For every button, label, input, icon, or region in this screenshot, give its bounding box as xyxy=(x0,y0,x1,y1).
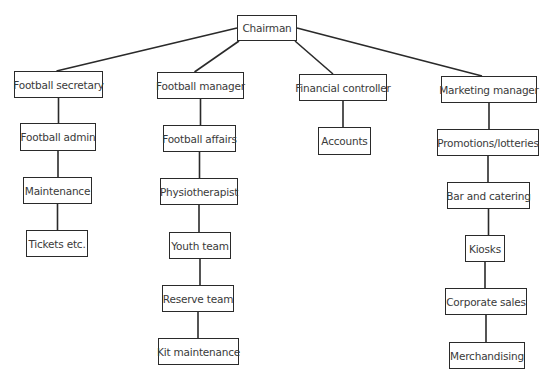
org-node-financial-controller: Financial controller xyxy=(299,74,387,101)
org-node-youth-team: Youth team xyxy=(169,232,231,259)
org-node-kiosks: Kiosks xyxy=(465,235,505,262)
connector-line xyxy=(297,28,482,76)
org-node-accounts: Accounts xyxy=(318,127,371,155)
org-node-merchandising: Merchandising xyxy=(449,342,525,369)
org-node-corporate-sales: Corporate sales xyxy=(445,288,527,315)
org-node-physiotherapist: Physiotherapist xyxy=(160,178,238,205)
org-node-kit-maintenance: Kit maintenance xyxy=(158,338,239,365)
org-node-bar-and-catering: Bar and catering xyxy=(447,182,530,209)
org-node-promotions-lotteries: Promotions/lotteries xyxy=(437,129,539,156)
org-node-tickets: Tickets etc. xyxy=(26,230,88,257)
org-node-football-manager: Football manager xyxy=(157,72,244,99)
org-node-marketing-manager: Marketing manager xyxy=(441,76,537,103)
org-node-football-admin: Football admin xyxy=(20,123,96,151)
org-node-chairman: Chairman xyxy=(237,15,297,41)
connector-line xyxy=(295,41,333,74)
connector-line xyxy=(57,28,238,71)
org-node-football-affairs: Football affairs xyxy=(163,125,236,152)
org-node-reserve-team: Reserve team xyxy=(162,285,234,312)
org-node-football-secretary: Football secretary xyxy=(14,71,103,98)
org-node-maintenance: Maintenance xyxy=(23,177,92,204)
connector-line xyxy=(195,41,240,72)
